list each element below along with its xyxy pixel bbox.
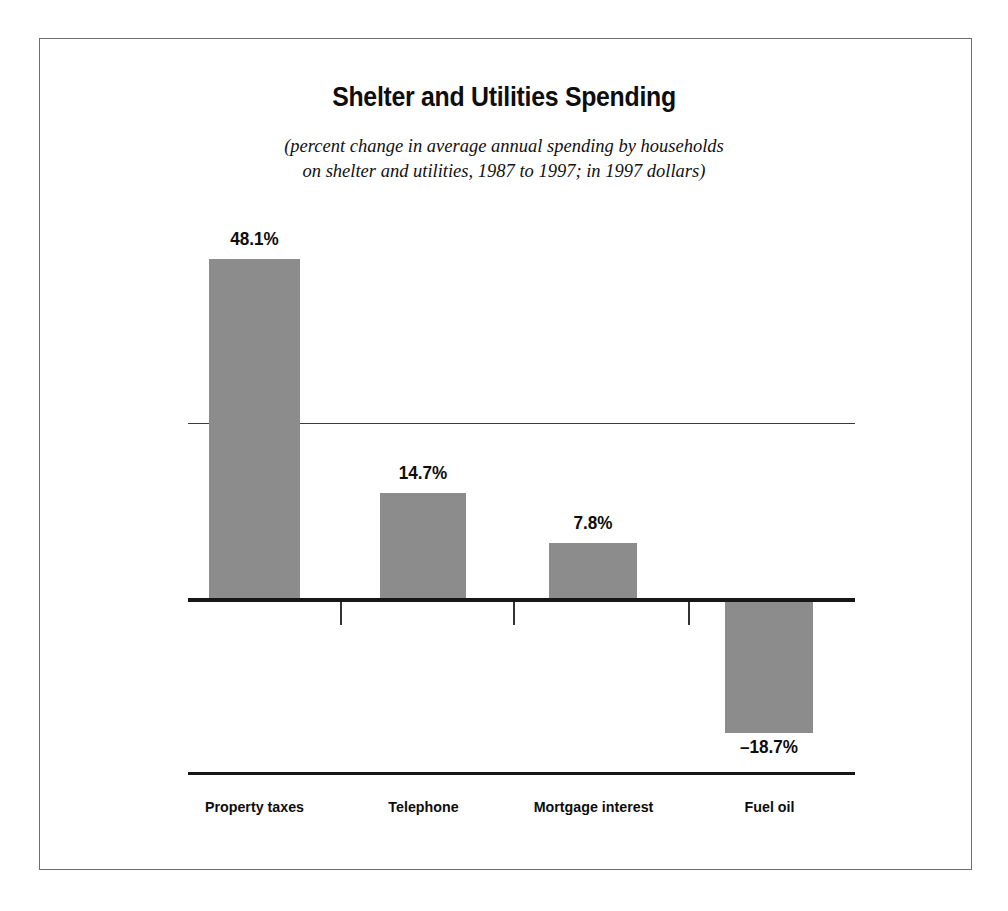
chart-subtitle-line-1: (percent change in average annual spendi…	[0, 134, 1008, 159]
axis-tick-2	[513, 602, 515, 625]
chart-figure: Shelter and Utilities Spending (percent …	[0, 0, 1008, 911]
plot-area: 48.1% 14.7% 7.8% –18.7% Property taxes T…	[188, 215, 855, 775]
chart-subtitle: (percent change in average annual spendi…	[0, 134, 1008, 184]
value-label-mortgage-interest: 7.8%	[553, 512, 632, 534]
bar-fuel-oil	[725, 602, 813, 733]
category-label-property-taxes: Property taxes	[199, 798, 310, 816]
bar-property-taxes	[209, 259, 300, 600]
axis-tick-1	[340, 602, 342, 625]
bottom-axis-line	[188, 772, 855, 775]
chart-subtitle-line-2: on shelter and utilities, 1987 to 1997; …	[0, 159, 1008, 184]
value-label-property-taxes: 48.1%	[214, 228, 296, 250]
category-label-fuel-oil: Fuel oil	[714, 798, 825, 816]
bar-mortgage-interest	[549, 543, 637, 600]
chart-title: Shelter and Utilities Spending	[40, 82, 967, 113]
category-label-telephone: Telephone	[368, 798, 479, 816]
value-label-fuel-oil: –18.7%	[720, 736, 817, 758]
zero-axis-line	[188, 598, 855, 602]
axis-tick-3	[688, 602, 690, 625]
value-label-telephone: 14.7%	[384, 462, 461, 484]
bar-telephone	[380, 493, 466, 600]
category-label-mortgage-interest: Mortgage interest	[532, 798, 654, 816]
